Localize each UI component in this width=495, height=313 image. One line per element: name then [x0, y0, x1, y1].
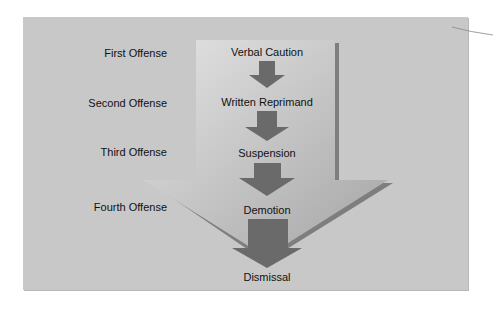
offense-label: Fourth Offense [47, 201, 167, 213]
offense-label: Second Offense [47, 97, 167, 109]
step-label: Dismissal [207, 271, 327, 283]
step-label: Written Reprimand [207, 96, 327, 108]
offense-label: Third Offense [47, 146, 167, 158]
offense-label: First Offense [47, 47, 167, 59]
step-label: Suspension [207, 147, 327, 159]
step-label: Verbal Caution [207, 46, 327, 58]
step-label: Demotion [207, 204, 327, 216]
pen-mark [452, 27, 493, 35]
